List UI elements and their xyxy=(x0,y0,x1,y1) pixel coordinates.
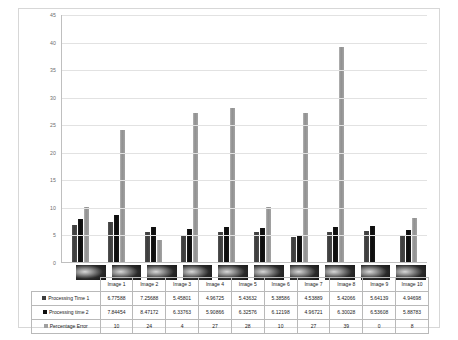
bar[interactable] xyxy=(187,229,192,262)
table-cell: 5.88783 xyxy=(396,306,429,320)
table-cell: 5.64139 xyxy=(363,292,396,306)
gridline xyxy=(62,15,427,16)
gridline xyxy=(62,153,427,154)
bar-group xyxy=(281,15,318,262)
bar[interactable] xyxy=(370,226,375,262)
bar[interactable] xyxy=(254,232,259,262)
table-cell: 10 xyxy=(264,320,297,334)
table-cell: 27 xyxy=(297,320,330,334)
table-cell: 4 xyxy=(166,320,199,334)
table-header-row: Image 1Image 2Image 3Image 4Image 5Image… xyxy=(32,278,429,292)
table-cell: 28 xyxy=(231,320,264,334)
y-axis-tick: 15 xyxy=(50,177,56,183)
table-corner-cell xyxy=(32,278,101,292)
bar[interactable] xyxy=(72,225,77,262)
table-column-header: Image 9 xyxy=(363,278,396,292)
bar[interactable] xyxy=(78,219,83,262)
bar[interactable] xyxy=(303,113,308,262)
table-cell: 4.94698 xyxy=(396,292,429,306)
table-cell: 5.45801 xyxy=(166,292,199,306)
table-cell: 8 xyxy=(396,320,429,334)
bar[interactable] xyxy=(333,227,338,262)
bar-group xyxy=(135,15,172,262)
legend-swatch-icon xyxy=(44,324,48,328)
bar-group xyxy=(172,15,209,262)
bar[interactable] xyxy=(230,108,235,262)
gridline xyxy=(62,235,427,236)
bar[interactable] xyxy=(84,207,89,262)
plot-wrapper: 454035302520151050 xyxy=(31,15,429,277)
table-row-header: Processing time 2 xyxy=(32,306,101,320)
gridline xyxy=(62,208,427,209)
table-cell: 5.90866 xyxy=(199,306,232,320)
table-column-header: Image 8 xyxy=(330,278,363,292)
bar[interactable] xyxy=(114,215,119,262)
table-row-header: Processing Time 1 xyxy=(32,292,101,306)
table-column-header: Image 3 xyxy=(166,278,199,292)
bar[interactable] xyxy=(120,130,125,262)
bar-group xyxy=(62,15,99,262)
table-cell: 24 xyxy=(133,320,166,334)
bar[interactable] xyxy=(224,227,229,262)
bar-group xyxy=(391,15,428,262)
table-cell: 0 xyxy=(363,320,396,334)
series-label: Processing time 2 xyxy=(49,309,89,315)
table-cell: 6.12198 xyxy=(264,306,297,320)
table-column-header: Image 5 xyxy=(231,278,264,292)
bar[interactable] xyxy=(193,113,198,262)
table-cell: 7.25688 xyxy=(133,292,166,306)
gridline xyxy=(62,70,427,71)
bar[interactable] xyxy=(181,235,186,262)
y-axis-tick: 25 xyxy=(50,122,56,128)
y-axis-tick: 20 xyxy=(50,150,56,156)
bar[interactable] xyxy=(260,228,265,262)
gridline xyxy=(62,98,427,99)
gridline xyxy=(62,43,427,44)
table-cell: 5.38586 xyxy=(264,292,297,306)
table-cell: 39 xyxy=(330,320,363,334)
plot-area xyxy=(61,15,427,263)
bar[interactable] xyxy=(297,235,302,262)
table-column-header: Image 10 xyxy=(396,278,429,292)
y-axis-tick: 30 xyxy=(50,95,56,101)
bar[interactable] xyxy=(291,237,296,262)
y-axis-tick: 0 xyxy=(53,260,56,266)
bars-layer xyxy=(62,15,427,262)
chart-frame: 454035302520151050 Image 1Image 2Image 3… xyxy=(18,8,440,328)
table-column-header: Image 6 xyxy=(264,278,297,292)
bar[interactable] xyxy=(327,232,332,262)
bar-group xyxy=(99,15,136,262)
bar[interactable] xyxy=(266,207,271,262)
table-column-header: Image 2 xyxy=(133,278,166,292)
legend-swatch-icon xyxy=(42,296,46,300)
bar[interactable] xyxy=(406,230,411,262)
table-body: Processing Time 16.775887.256885.458014.… xyxy=(32,292,429,334)
y-axis-tick: 40 xyxy=(50,40,56,46)
bar[interactable] xyxy=(412,218,417,262)
screenshot-root: 454035302520151050 Image 1Image 2Image 3… xyxy=(0,0,458,340)
table-cell: 5.42066 xyxy=(330,292,363,306)
bar[interactable] xyxy=(218,232,223,262)
bar-group xyxy=(354,15,391,262)
bar[interactable] xyxy=(108,222,113,262)
table-cell: 4.53889 xyxy=(297,292,330,306)
table-cell: 5.43632 xyxy=(231,292,264,306)
y-axis-tick: 35 xyxy=(50,67,56,73)
table-column-header: Image 1 xyxy=(100,278,133,292)
table-cell: 8.47172 xyxy=(133,306,166,320)
table-column-header: Image 7 xyxy=(297,278,330,292)
table-row-header: Percentage Error xyxy=(32,320,101,334)
bar[interactable] xyxy=(339,47,344,262)
table-cell: 6.32576 xyxy=(231,306,264,320)
bar-group xyxy=(318,15,355,262)
bar[interactable] xyxy=(151,227,156,262)
series-label: Percentage Error xyxy=(50,323,88,329)
y-axis-tick: 5 xyxy=(53,232,56,238)
table-cell: 6.33763 xyxy=(166,306,199,320)
y-axis: 454035302520151050 xyxy=(31,15,59,263)
bar[interactable] xyxy=(400,235,405,262)
bar[interactable] xyxy=(157,240,162,262)
series-label: Processing Time 1 xyxy=(48,295,89,301)
table-cell: 6.53608 xyxy=(363,306,396,320)
table-cell: 6.30028 xyxy=(330,306,363,320)
